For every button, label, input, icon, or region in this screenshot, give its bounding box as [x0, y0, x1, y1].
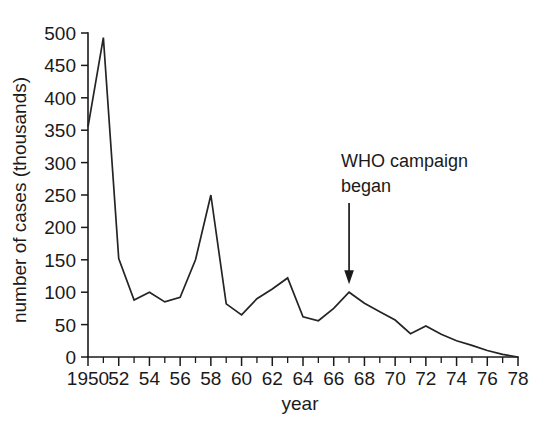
y-axis-tick-mark-group [81, 33, 88, 357]
data-series-line [88, 38, 518, 357]
x-axis-tick-label: 66 [323, 368, 344, 389]
x-axis-tick-label: 70 [385, 368, 406, 389]
x-axis-tick-label-group: 19505254565860626466687072747678 [67, 368, 529, 389]
y-axis-tick-label: 50 [55, 315, 76, 336]
y-axis-tick-label: 400 [44, 88, 76, 109]
x-axis-tick-label: 52 [108, 368, 129, 389]
x-axis-title: year [282, 393, 320, 414]
y-axis-tick-label: 500 [44, 23, 76, 44]
x-axis-tick-label: 76 [477, 368, 498, 389]
annotation-text-line-1: WHO campaign [341, 151, 468, 171]
y-axis-tick-label: 0 [65, 347, 76, 368]
x-axis-tick-label: 62 [262, 368, 283, 389]
x-axis-tick-label: 68 [354, 368, 375, 389]
x-axis-tick-label: 58 [200, 368, 221, 389]
annotation-arrow-head [344, 270, 354, 284]
annotation-text-line-2: began [341, 176, 391, 196]
y-axis-tick-label: 250 [44, 185, 76, 206]
y-axis-tick-label: 300 [44, 153, 76, 174]
who-campaign-annotation: WHO campaign began [341, 151, 468, 284]
y-axis-tick-label: 100 [44, 282, 76, 303]
x-axis-tick-label: 72 [415, 368, 436, 389]
x-axis-tick-label: 1950 [67, 368, 109, 389]
x-axis-tick-label: 60 [231, 368, 252, 389]
x-axis-tick-label: 64 [292, 368, 314, 389]
x-axis-tick-label: 54 [139, 368, 161, 389]
y-axis-tick-label: 150 [44, 250, 76, 271]
y-axis-tick-label: 450 [44, 55, 76, 76]
chart-figure: 050100150200250300350400450500 195052545… [0, 0, 557, 433]
x-axis-tick-mark-group [88, 357, 518, 366]
x-axis-tick-label: 56 [170, 368, 191, 389]
y-axis-tick-label-group: 050100150200250300350400450500 [44, 23, 76, 368]
y-axis-tick-label: 350 [44, 120, 76, 141]
line-chart: 050100150200250300350400450500 195052545… [0, 0, 557, 433]
x-axis-tick-label: 74 [446, 368, 468, 389]
y-axis-tick-label: 200 [44, 217, 76, 238]
x-axis-tick-label: 78 [507, 368, 528, 389]
y-axis-title: number of cases (thousands) [9, 77, 30, 323]
